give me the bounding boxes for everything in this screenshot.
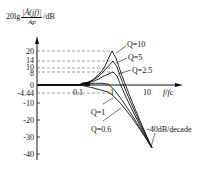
label-slope: -40dB/decade — [147, 125, 192, 134]
y-tick-labels: 20 14 10 8 0 -4.44 -10 -20 -30 -40 — [17, 47, 34, 159]
label-q25: Q=2.5 — [132, 66, 152, 75]
y-tick-20: 20 — [26, 47, 34, 56]
x-tick-10: 10 — [143, 88, 151, 97]
filter-bode-chart: 20 14 10 8 0 -4.44 -10 -20 -30 -40 0.1 1… — [0, 0, 213, 171]
y-tick-minus-10: -10 — [23, 99, 34, 108]
label-q5: Q=5 — [128, 53, 142, 62]
label-q06: Q=0.6 — [91, 125, 111, 134]
x-axis-label: f/fc — [163, 88, 174, 97]
x-tick-0-1: 0.1 — [73, 88, 83, 97]
y-tick-minus-4-44: -4.44 — [17, 89, 34, 98]
y-axis-arrow-icon — [35, 36, 39, 44]
y-tick-8: 8 — [30, 69, 34, 78]
label-q1: Q=1 — [91, 108, 105, 117]
x-axis-arrow-icon — [175, 83, 183, 87]
label-q10: Q=10 — [127, 40, 145, 49]
y-tick-minus-30: -30 — [23, 133, 34, 142]
y-tick-minus-20: -20 — [23, 116, 34, 125]
y-tick-minus-40: -40 — [23, 150, 34, 159]
